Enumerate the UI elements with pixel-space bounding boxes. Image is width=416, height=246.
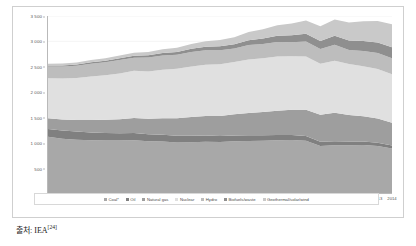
legend-swatch-icon bbox=[142, 198, 145, 201]
source-caption: 출처: IEA[24] bbox=[16, 224, 57, 235]
legend-swatch-icon bbox=[104, 198, 107, 201]
legend-item[interactable]: Coal* bbox=[104, 197, 119, 202]
y-axis: 05001 0001 5002 0002 5003 0003 500 bbox=[13, 16, 45, 194]
chart-frame: 05001 0001 5002 0002 5003 0003 500 19901… bbox=[12, 6, 404, 218]
legend-swatch-icon bbox=[201, 198, 204, 201]
source-text: 출처: IEA bbox=[16, 226, 48, 235]
y-axis-tick-mark bbox=[43, 143, 45, 144]
legend-swatch-icon bbox=[263, 198, 266, 201]
y-axis-tick-label: 1 500 bbox=[31, 115, 43, 120]
area-series bbox=[48, 137, 392, 193]
legend-item-label: Geothermal/solar/wind bbox=[267, 197, 309, 202]
plot-area bbox=[47, 16, 392, 194]
y-axis-tick-mark bbox=[43, 118, 45, 119]
legend-item-label: Oil bbox=[130, 197, 135, 202]
y-axis-tick-mark bbox=[43, 92, 45, 93]
stacked-area-svg bbox=[48, 16, 392, 193]
y-axis-tick-label: 2 000 bbox=[31, 90, 43, 95]
legend-item-label: Biofuels/waste bbox=[229, 197, 256, 202]
legend-item-label: Coal* bbox=[109, 197, 119, 202]
legend-item-label: Nuclear bbox=[180, 197, 194, 202]
y-axis-tick-mark bbox=[43, 67, 45, 68]
source-reference: [24] bbox=[48, 224, 57, 230]
legend-item[interactable]: Natural gas bbox=[142, 197, 168, 202]
y-axis-tick-label: 3 500 bbox=[31, 14, 43, 19]
y-axis-tick-label: 500 bbox=[34, 166, 42, 171]
y-axis-tick-mark bbox=[43, 41, 45, 42]
area-series-group bbox=[48, 19, 392, 193]
chart-screenshot: 05001 0001 5002 0002 5003 0003 500 19901… bbox=[0, 0, 416, 246]
y-axis-tick-mark bbox=[43, 16, 45, 17]
chart-legend: Coal*OilNatural gasNuclearHydroBiofuels/… bbox=[34, 193, 379, 205]
legend-item[interactable]: Geothermal/solar/wind bbox=[263, 197, 309, 202]
y-axis-tick-label: 2 500 bbox=[31, 64, 43, 69]
legend-item-label: Hydro bbox=[206, 197, 217, 202]
legend-swatch-icon bbox=[126, 198, 129, 201]
plot-wrapper: 05001 0001 5002 0002 5003 0003 500 19901… bbox=[47, 16, 392, 194]
y-axis-tick-mark bbox=[43, 169, 45, 170]
legend-item[interactable]: Nuclear bbox=[175, 197, 194, 202]
legend-swatch-icon bbox=[224, 198, 227, 201]
y-axis-tick-label: 3 000 bbox=[31, 39, 43, 44]
x-axis-tick-label: 2014 bbox=[387, 196, 396, 201]
legend-item[interactable]: Biofuels/waste bbox=[224, 197, 256, 202]
legend-item-label: Natural gas bbox=[147, 197, 168, 202]
legend-item[interactable]: Oil bbox=[126, 197, 136, 202]
legend-item[interactable]: Hydro bbox=[201, 197, 217, 202]
y-axis-tick-label: 1 000 bbox=[31, 141, 43, 146]
legend-swatch-icon bbox=[175, 198, 178, 201]
